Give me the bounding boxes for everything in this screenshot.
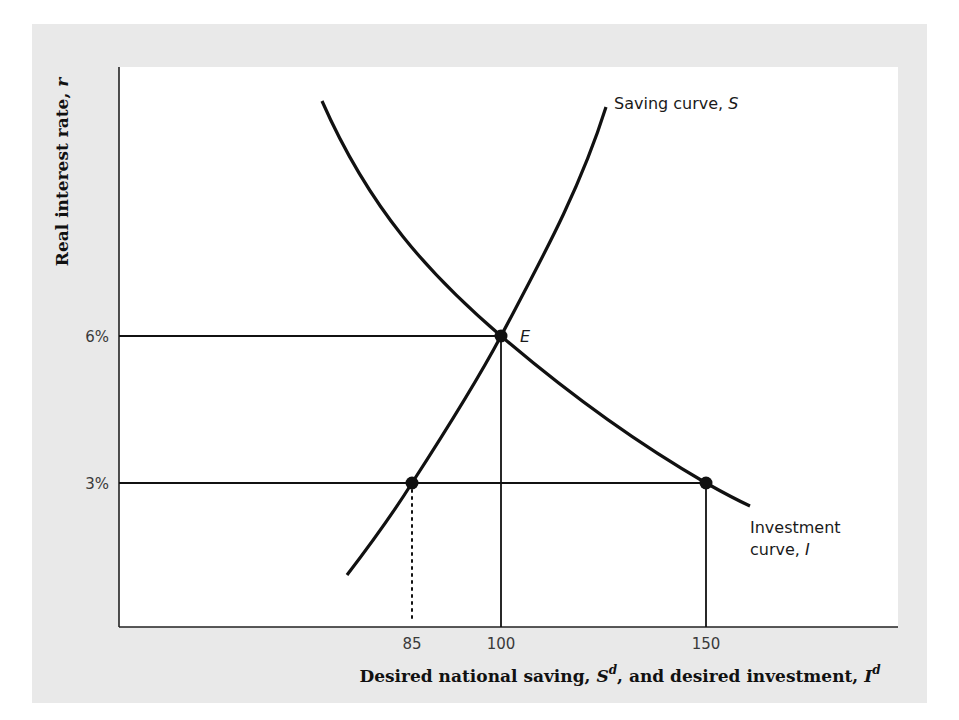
x-tick-85: 85 xyxy=(402,635,421,653)
x-tick-100: 100 xyxy=(487,635,516,653)
x-tick-150: 150 xyxy=(692,635,721,653)
saving-curve-label: Saving curve, S xyxy=(614,94,738,113)
investment-curve-label-line2: curve, I xyxy=(750,540,810,559)
y-tick-3: 3% xyxy=(85,475,109,493)
point-investment-150 xyxy=(700,477,713,490)
point-saving-85 xyxy=(406,477,419,490)
chart-svg: E Saving curve, S Investment curve, I 6%… xyxy=(0,0,959,720)
y-tick-6: 6% xyxy=(85,328,109,346)
point-e xyxy=(495,330,508,343)
y-axis-title: Real interest rate, r xyxy=(52,77,72,266)
investment-curve-label-line1: Investment xyxy=(750,518,841,537)
point-e-label: E xyxy=(520,327,531,346)
x-axis-title: Desired national saving, Sd, and desired… xyxy=(359,663,881,686)
